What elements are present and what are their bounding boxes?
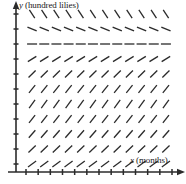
slope-segment xyxy=(101,161,109,167)
slope-segment xyxy=(90,100,96,108)
slope-field-row xyxy=(29,130,169,138)
slope-segment xyxy=(77,70,84,77)
slope-segment xyxy=(41,85,47,93)
slope-segment xyxy=(114,115,120,123)
slope-segment xyxy=(126,146,133,153)
slope-segment xyxy=(54,10,59,18)
slope-segment xyxy=(102,10,107,18)
slope-segment xyxy=(27,27,36,31)
slope-segment xyxy=(28,161,36,167)
slope-segment xyxy=(162,70,169,77)
slope-segment xyxy=(29,115,35,123)
slope-segment xyxy=(41,115,47,123)
slope-segment xyxy=(163,100,169,108)
x-axis-label: x (months) xyxy=(130,155,168,165)
slope-segment xyxy=(29,10,34,18)
slope-segment xyxy=(163,115,169,123)
slope-segment xyxy=(78,10,83,18)
slope-segment xyxy=(40,27,49,31)
slope-segment xyxy=(102,100,108,108)
slope-segment xyxy=(102,115,108,123)
slope-segment xyxy=(150,70,157,77)
slope-segment xyxy=(52,27,61,31)
y-axis-units: (hundred lilies) xyxy=(25,0,79,10)
slope-segment xyxy=(125,27,134,31)
slope-segment xyxy=(52,56,61,61)
slope-segment xyxy=(65,130,72,138)
slope-segment xyxy=(89,70,96,77)
slope-field-row xyxy=(28,146,169,153)
x-axis-units: (months) xyxy=(136,155,168,165)
slope-segment xyxy=(29,70,36,77)
slope-segment xyxy=(65,161,73,167)
slope-segment xyxy=(150,146,157,153)
slope-segment xyxy=(113,161,121,167)
slope-segment xyxy=(40,56,49,61)
slope-field-row xyxy=(28,56,170,61)
slope-segment xyxy=(64,27,73,31)
slope-segment xyxy=(40,161,48,167)
slope-segment xyxy=(114,130,121,138)
slope-segment xyxy=(151,10,156,18)
slope-field-row xyxy=(27,27,170,31)
slope-field-row xyxy=(29,115,169,123)
slope-segment xyxy=(126,130,133,138)
slope-segment xyxy=(163,130,170,138)
slope-segment xyxy=(162,56,171,61)
slope-segment xyxy=(102,70,109,77)
slope-segment xyxy=(161,27,170,31)
slope-segment xyxy=(114,100,120,108)
slope-segment xyxy=(137,27,146,31)
slope-segment xyxy=(29,100,35,108)
slope-segment xyxy=(139,115,145,123)
slope-segment xyxy=(76,27,85,31)
slope-segment xyxy=(151,100,157,108)
slope-segment xyxy=(89,146,96,153)
slope-segment xyxy=(127,10,132,18)
slope-segment xyxy=(88,27,97,31)
slope-segment xyxy=(113,56,122,61)
slope-segment xyxy=(126,115,132,123)
slope-segment xyxy=(149,27,158,31)
slope-segment xyxy=(28,146,35,153)
slope-segment xyxy=(53,70,60,77)
slope-segment xyxy=(66,10,71,18)
slope-field-row xyxy=(29,70,170,77)
slope-segment xyxy=(150,130,157,138)
slope-segment xyxy=(42,10,47,18)
slope-segment xyxy=(78,100,84,108)
slope-segment xyxy=(78,85,84,93)
slope-segment xyxy=(78,115,84,123)
slope-segment xyxy=(53,146,60,153)
slope-segment xyxy=(65,85,71,93)
slope-segment xyxy=(53,100,59,108)
slope-segment xyxy=(77,130,84,138)
slope-segment xyxy=(139,100,145,108)
slope-segment xyxy=(102,85,108,93)
slope-segment xyxy=(138,146,145,153)
slope-field-row xyxy=(29,85,169,93)
slope-segment xyxy=(139,10,144,18)
slope-segment xyxy=(114,70,121,77)
slope-segment xyxy=(90,115,96,123)
slope-segment xyxy=(163,10,168,18)
slope-field-row xyxy=(29,10,168,18)
slope-segment xyxy=(52,161,60,167)
slope-segment xyxy=(89,56,98,61)
y-axis-label: y (hundred lilies) xyxy=(19,0,79,10)
slope-field-row xyxy=(29,100,169,108)
slope-segment xyxy=(102,130,109,138)
slope-segment xyxy=(66,100,72,108)
slope-segment xyxy=(41,130,48,138)
slope-segment xyxy=(100,27,109,31)
slope-segment xyxy=(151,115,157,123)
slope-segment xyxy=(137,56,146,61)
slope-segment xyxy=(90,10,95,18)
slope-segment xyxy=(28,56,37,61)
slope-segment xyxy=(90,85,96,93)
slope-segment xyxy=(115,10,120,18)
slope-segment xyxy=(66,115,72,123)
slope-segment xyxy=(125,56,134,61)
slope-segment xyxy=(89,161,97,167)
slope-segment xyxy=(29,130,36,138)
